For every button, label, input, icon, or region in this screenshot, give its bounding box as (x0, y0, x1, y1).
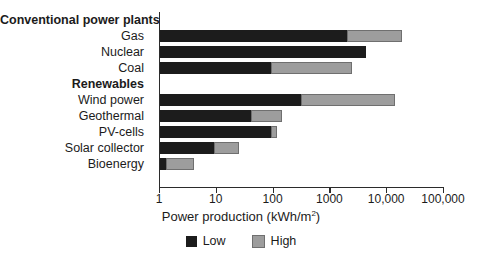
bar-segment-low (160, 110, 251, 122)
chart-legend: LowHigh (0, 234, 482, 248)
group-header-label: Conventional power plants (0, 12, 150, 28)
x-axis-title-text: Power production (kWh/m (162, 209, 312, 224)
bar-segment-high (301, 94, 396, 106)
x-axis-tick-label: 10,000 (368, 192, 405, 206)
bar-segment-high (271, 62, 352, 74)
low-swatch (186, 236, 197, 247)
bar-segment-low (160, 126, 271, 138)
power-production-chart: Conventional power plantsGasNuclearCoalR… (0, 0, 482, 260)
legend-item: High (252, 234, 297, 248)
bar-row (160, 108, 444, 124)
category-label: Nuclear (0, 44, 150, 60)
category-label-column: Conventional power plantsGasNuclearCoalR… (0, 12, 150, 172)
bar-row (160, 28, 444, 44)
legend-item: Low (186, 234, 226, 248)
x-axis-title: Power production (kWh/m2) (0, 209, 482, 224)
legend-label: Low (203, 234, 226, 248)
bar-row (160, 44, 444, 60)
x-axis-tick-label: 100 (263, 192, 283, 206)
x-axis-tick-label: 100,000 (421, 192, 464, 206)
legend-label: High (271, 234, 297, 248)
bar-row (160, 124, 444, 140)
category-label: Solar collector (0, 140, 150, 156)
bar-segment-high (271, 126, 277, 138)
bar-row (160, 60, 444, 76)
category-label: Wind power (0, 92, 150, 108)
high-swatch (252, 235, 265, 248)
bar-segment-low (160, 62, 271, 74)
bar-segment-high (251, 110, 282, 122)
bar-segment-high (166, 158, 194, 170)
bar-segment-high (347, 30, 401, 42)
x-axis-tick-label: 1000 (316, 192, 343, 206)
bar-segment-low (160, 94, 301, 106)
x-axis-tick-label: 10 (209, 192, 222, 206)
bar-row (160, 92, 444, 108)
plot-area (159, 12, 444, 188)
bar-segment-low (160, 46, 366, 58)
category-label: Bioenergy (0, 156, 150, 172)
bar-row (160, 140, 444, 156)
category-label: PV-cells (0, 124, 150, 140)
category-label: Gas (0, 28, 150, 44)
bar-segment-low (160, 30, 347, 42)
x-axis-tick-label: 1 (156, 192, 163, 206)
bar-segment-low (160, 142, 214, 154)
category-label: Geothermal (0, 108, 150, 124)
group-header-label: Renewables (0, 76, 150, 92)
x-axis-title-tail: ) (316, 209, 320, 224)
category-label: Coal (0, 60, 150, 76)
bar-row (160, 156, 444, 172)
bar-segment-high (214, 142, 239, 154)
